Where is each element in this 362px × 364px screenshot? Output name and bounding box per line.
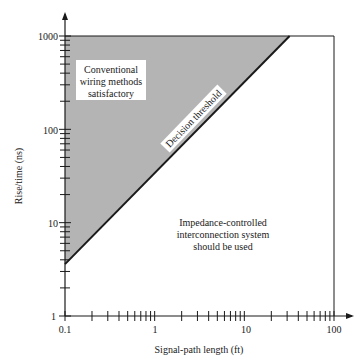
upper-region-label-line1: Conventional [84, 64, 138, 75]
lower-region-label-line3: should be used [193, 241, 252, 252]
x-tick-label-1: 1 [153, 324, 158, 335]
y-tick-label-1: 1 [51, 311, 56, 322]
chart: Conventional wiring methods satisfactory… [0, 0, 362, 364]
x-tick-label-100: 100 [327, 324, 342, 335]
y-tick-label-1000: 1000 [38, 31, 58, 42]
y-axis-label: Rise/time (ns) [13, 148, 25, 204]
upper-region-label-line3: satisfactory [88, 88, 134, 99]
x-axis-label: Signal-path length (ft) [155, 344, 244, 356]
y-tick-label-10: 10 [48, 218, 58, 229]
x-axis-arrow-icon [346, 313, 354, 319]
y-axis-arrow-icon [62, 12, 68, 20]
y-tick-label-100: 100 [43, 125, 58, 136]
x-tick-label-10: 10 [241, 324, 251, 335]
x-tick-label-0.1: 0.1 [59, 324, 72, 335]
upper-region-label-line2: wiring methods [80, 76, 143, 87]
lower-region-label-line1: Impedance-controlled [179, 217, 267, 228]
lower-region-label-line2: interconnection system [177, 229, 270, 240]
